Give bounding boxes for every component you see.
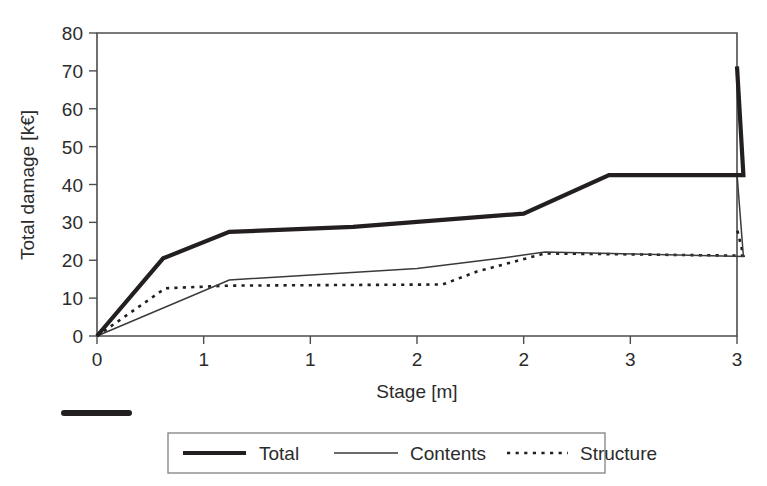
legend: Total Contents Structure [168, 433, 657, 473]
chart-container: 01020304050607080 0112233 Total damage [… [0, 0, 767, 486]
y-tick-label: 30 [62, 212, 83, 233]
plot-frame [97, 33, 737, 336]
x-axis-title: Stage [m] [376, 381, 457, 402]
legend-label-total: Total [259, 443, 299, 464]
y-axis: 01020304050607080 [62, 23, 97, 347]
legend-label-structure: Structure [580, 443, 657, 464]
x-tick-label: 3 [625, 349, 636, 370]
x-tick-label: 2 [412, 349, 423, 370]
y-axis-title: Total damage [k€] [17, 110, 38, 260]
y-tick-label: 60 [62, 99, 83, 120]
legend-label-contents: Contents [410, 443, 486, 464]
x-tick-label: 1 [305, 349, 316, 370]
x-tick-label: 0 [92, 349, 103, 370]
y-tick-label: 20 [62, 250, 83, 271]
y-tick-label: 40 [62, 175, 83, 196]
plot-border [97, 33, 737, 336]
y-tick-label: 80 [62, 23, 83, 44]
y-tick-label: 70 [62, 61, 83, 82]
x-tick-label: 1 [198, 349, 209, 370]
y-tick-label: 50 [62, 137, 83, 158]
stray-rule-mark [61, 410, 132, 416]
x-axis: 0112233 [92, 336, 743, 370]
series-line-contents [97, 174, 743, 336]
x-tick-label: 2 [518, 349, 529, 370]
data-series-group [97, 66, 743, 336]
y-tick-label: 0 [72, 326, 83, 347]
x-tick-label: 3 [732, 349, 743, 370]
y-tick-label: 10 [62, 288, 83, 309]
chart-svg: 01020304050607080 0112233 Total damage [… [0, 0, 767, 486]
